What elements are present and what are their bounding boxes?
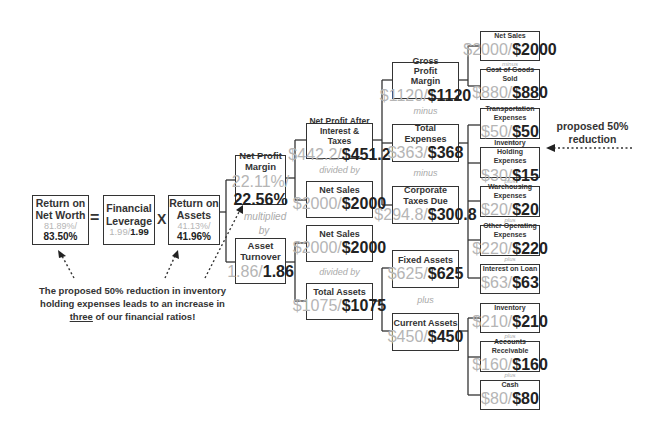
node-new-value: 41.96%	[177, 231, 211, 243]
node-label: Corporate Taxes Due	[400, 185, 452, 206]
node-label: Return on Net Worth	[33, 197, 88, 221]
plus-operator: plus	[392, 295, 459, 305]
node-old-value: $450/	[388, 328, 428, 345]
node-label: Net Profit After Interest & Taxes	[307, 117, 372, 146]
node-label: Interest on Loan	[483, 265, 537, 274]
node-new-value: $451.2	[342, 146, 391, 163]
node-label: Total Assets	[313, 287, 366, 297]
node-new-value: $80	[512, 390, 539, 407]
node-label: Cost of Goods Sold	[484, 66, 536, 84]
node-net-sales-gross: Net Sales $2000/$2000	[480, 31, 540, 61]
summary-note-emphasis: three	[70, 311, 93, 322]
node-new-value: $1075	[342, 297, 387, 314]
node-label: Net Sales	[494, 32, 526, 41]
node-old-value: $2000/	[293, 239, 342, 256]
node-old-value: $160/	[472, 356, 512, 373]
node-old-value: 81.89%/	[44, 221, 77, 231]
node-label: Inventory	[494, 304, 526, 313]
node-old-value: 1.86/	[227, 263, 263, 280]
node-label: Inventory Holding Expenses	[481, 139, 539, 165]
node-label: Cash	[501, 381, 518, 390]
node-new-value: $160	[512, 356, 548, 373]
node-label: Transportation Expenses	[484, 105, 536, 123]
node-label: Gross Profit Margin	[401, 56, 451, 87]
node-label: Net Sales	[319, 229, 360, 239]
plus-operator: plus	[480, 372, 540, 378]
node-new-value: $210	[512, 313, 548, 330]
summary-note: The proposed 50% reduction in inventory …	[20, 285, 245, 323]
node-financial-leverage: Financial Leverage 1.99/1.99	[103, 195, 155, 245]
multiplied-by-operator: multiplied by	[244, 210, 284, 237]
node-net-sales-turnover: Net Sales $2000/$2000	[306, 225, 373, 262]
node-label: Current Assets	[393, 318, 457, 328]
node-label: Accounts Receivable	[485, 338, 535, 356]
node-label: Fixed Assets	[398, 255, 453, 265]
node-gross-profit-margin: Gross Profit Margin $1120/$1120	[392, 62, 459, 99]
node-old-value: 41.13%/	[177, 221, 210, 231]
node-new-value: 1.86	[263, 263, 294, 280]
node-net-profit-after-interest-taxes: Net Profit After Interest & Taxes $442.2…	[306, 123, 373, 159]
node-old-value: 1.99/	[109, 226, 130, 237]
node-accounts-receivable: Accounts Receivable $160/$160	[480, 341, 540, 372]
summary-note-line-3: of our financial ratios!	[93, 311, 195, 322]
node-new-value: $20	[512, 201, 539, 218]
node-old-value: $880/	[472, 84, 512, 101]
node-old-value: $625/	[388, 265, 428, 282]
node-old-value: $1075/	[293, 297, 342, 314]
node-warehousing-expenses: Warehousing Expenses $20/$20	[480, 186, 540, 217]
node-interest-on-loan: Interest on Loan $63/$63	[480, 264, 540, 294]
node-old-value: $63/	[481, 274, 512, 291]
summary-note-line-1: The proposed 50% reduction in inventory	[20, 285, 245, 298]
node-new-value: $220	[512, 240, 548, 257]
minus-operator: minus	[392, 106, 459, 116]
node-old-value: $210/	[472, 313, 512, 330]
node-new-value: $450	[428, 328, 464, 345]
node-label: Financial Leverage	[104, 202, 154, 226]
equals-operator: =	[90, 209, 99, 227]
node-old-value: $442.2/	[288, 146, 341, 163]
node-new-value: $1120	[428, 87, 472, 104]
proposed-reduction-label: proposed 50% reduction	[555, 120, 630, 146]
node-cost-of-goods-sold: Cost of Goods Sold $880/$880	[480, 69, 540, 100]
node-old-value: $2000/	[293, 195, 342, 212]
node-label: Return on Assets	[169, 197, 219, 221]
node-old-value: $80/	[481, 390, 512, 407]
node-new-value: $2000	[342, 239, 387, 256]
node-new-value: $2000	[512, 41, 557, 58]
node-label: Other Operating Expenses	[481, 222, 539, 240]
divided-by-operator: divided by	[306, 267, 373, 277]
node-new-value: $63	[512, 274, 539, 291]
node-inventory-holding-expenses: Inventory Holding Expenses $30/$15	[480, 147, 540, 178]
node-net-profit-margin: Net Profit Margin 22.11%/ 22.56%	[235, 155, 286, 205]
node-net-sales: Net Sales $2000/$2000	[306, 181, 373, 218]
node-new-value: 83.50%	[44, 231, 78, 243]
node-new-value: $300.8	[428, 206, 477, 223]
node-total-expenses: Total Expenses $363/$368	[392, 124, 459, 162]
node-old-value: $294.8/	[374, 206, 427, 223]
node-old-value: $363/	[388, 144, 428, 161]
node-new-value: $368	[428, 144, 464, 161]
node-transportation-expenses: Transportation Expenses $50/$50	[480, 108, 540, 139]
node-label: Net Profit Margin	[236, 151, 285, 173]
node-corporate-taxes-due: Corporate Taxes Due $294.8/$300.8	[392, 186, 459, 224]
node-return-on-assets: Return on Assets 41.13%/ 41.96%	[168, 195, 220, 245]
times-operator: X	[157, 211, 166, 227]
node-old-value: $50/	[481, 123, 512, 140]
node-asset-turnover: Asset Turnover 1.86/1.86	[235, 238, 286, 284]
node-current-assets: Current Assets $450/$450	[392, 313, 459, 351]
node-new-value: $625	[428, 265, 464, 282]
node-new-value: $880	[512, 84, 548, 101]
node-label: Asset Turnover	[236, 241, 285, 263]
divided-by-operator: divided by	[306, 165, 373, 175]
node-old-value: $220/	[472, 240, 512, 257]
node-old-value: $1120/	[380, 87, 428, 104]
node-fixed-assets: Fixed Assets $625/$625	[392, 250, 459, 288]
minus-operator: minus	[392, 168, 459, 178]
node-new-value: 1.99	[130, 226, 149, 237]
node-cash: Cash $80/$80	[480, 380, 540, 410]
node-label: Net Sales	[319, 185, 360, 195]
node-inventory: Inventory $210/$210	[480, 303, 540, 333]
node-return-on-net-worth: Return on Net Worth 81.89%/ 83.50%	[32, 195, 89, 245]
node-old-value: $20/	[481, 201, 512, 218]
node-label: Warehousing Expenses	[484, 183, 536, 201]
